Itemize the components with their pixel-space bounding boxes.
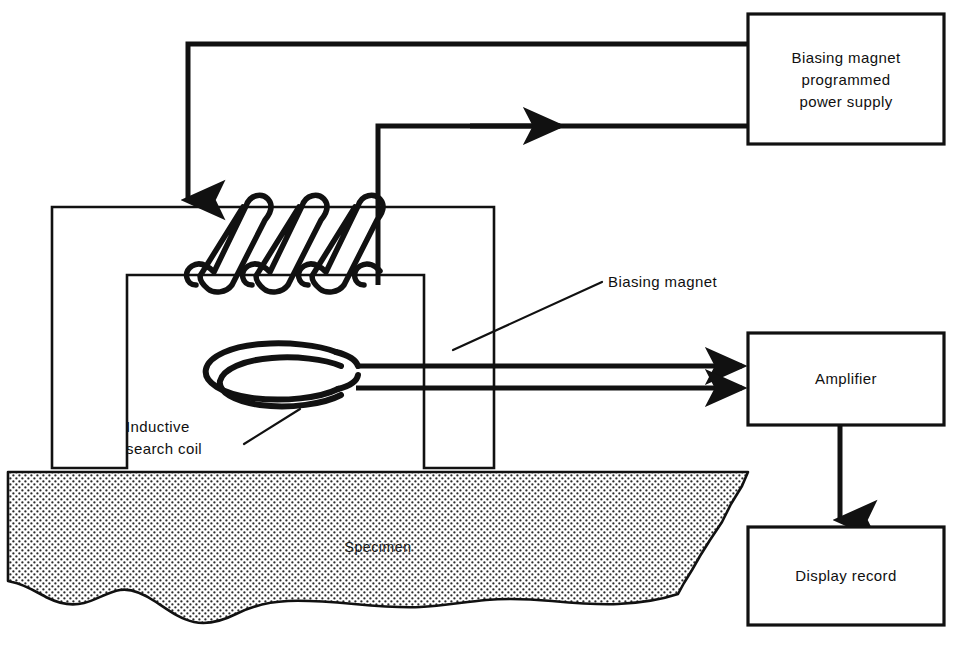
power-supply-label-line2: programmed [801,71,890,88]
search-coil-label-line2: search coil [126,440,202,457]
specimen-label: Specimen [344,539,411,555]
search-coil-leads [356,366,742,388]
block-display-record[interactable]: Display record [748,527,944,625]
display-record-label: Display record [795,567,896,584]
search-coil-label-line1: Inductive [126,418,190,435]
diagram-canvas: Specimen [0,0,956,657]
power-supply-label-line3: power supply [799,93,892,110]
inductive-search-coil [206,343,358,406]
block-power-supply[interactable]: Biasing magnet programmed power supply [748,14,944,144]
biasing-magnet-leader [453,282,602,350]
schematic-svg: Specimen [0,0,956,657]
amplifier-label: Amplifier [815,370,877,387]
supply-return-wire [378,126,748,285]
search-coil-leader [244,409,300,444]
excitation-coil [187,195,383,292]
specimen-block: Specimen [8,472,748,623]
power-supply-label-line1: Biasing magnet [792,49,901,66]
biasing-magnet-label: Biasing magnet [608,273,717,290]
callout-inductive-search-coil: Inductive search coil [126,409,300,457]
block-amplifier[interactable]: Amplifier [748,333,944,425]
supply-output-wire [188,44,748,200]
callout-biasing-magnet: Biasing magnet [453,273,717,350]
